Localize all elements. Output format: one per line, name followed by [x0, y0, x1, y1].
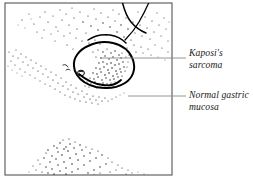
label-mucosa-line1: Normal gastric — [189, 89, 249, 100]
illustration-frame — [5, 3, 172, 175]
label-kaposi-line1: Kaposi's — [189, 47, 223, 58]
label-kaposi-sarcoma: Kaposi's sarcoma — [189, 47, 223, 70]
label-kaposi-line2: sarcoma — [189, 59, 223, 71]
label-mucosa-line2: mucosa — [189, 101, 249, 113]
label-normal-gastric-mucosa: Normal gastric mucosa — [189, 89, 249, 112]
figure-container: Kaposi's sarcoma Normal gastric mucosa — [0, 0, 253, 185]
